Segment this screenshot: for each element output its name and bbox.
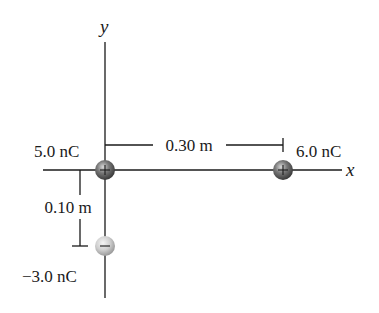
charge-q1: 5.0 nC: [34, 142, 115, 180]
x-axis-label: x: [345, 159, 355, 180]
charge-label-q2: 6.0 nC: [296, 142, 341, 161]
y-axis-label: y: [98, 16, 109, 37]
dimension-vertical: 0.10 m: [44, 170, 91, 246]
dimension-label-vertical: 0.10 m: [44, 198, 91, 217]
dimension-label-horizontal: 0.30 m: [165, 136, 212, 155]
charge-label-q1: 5.0 nC: [34, 142, 79, 161]
charge-q3: −3.0 nC: [22, 236, 115, 286]
dimension-horizontal: 0.30 m: [105, 136, 283, 155]
charge-diagram: y x 0.30 m 0.10 m 5.0 nC 6.0 nC −3.0 nC: [0, 0, 379, 313]
charge-label-q3: −3.0 nC: [22, 267, 77, 286]
